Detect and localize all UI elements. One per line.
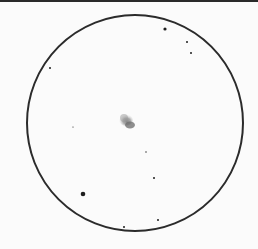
- star: [153, 177, 155, 179]
- star: [49, 67, 51, 69]
- star: [72, 126, 73, 127]
- star: [186, 41, 188, 43]
- star: [145, 151, 146, 152]
- field-of-view-circle: [27, 15, 243, 231]
- star-field: [49, 27, 192, 228]
- star: [157, 219, 159, 221]
- star: [81, 192, 86, 197]
- star: [123, 226, 125, 228]
- nebula: [119, 114, 135, 129]
- star: [190, 52, 192, 54]
- star: [163, 27, 166, 30]
- eyepiece-sketch: [0, 0, 258, 249]
